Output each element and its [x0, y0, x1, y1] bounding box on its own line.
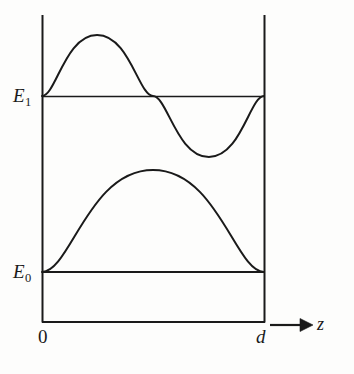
- energy-level-label-e1-letter: E: [13, 85, 25, 106]
- x-axis-tick-label-width: d: [256, 327, 266, 346]
- energy-level-label-e1: E1: [13, 86, 31, 105]
- energy-level-label-e0: E0: [13, 262, 31, 281]
- energy-level-label-e0-letter: E: [13, 261, 25, 282]
- x-axis-name-label: z: [317, 315, 324, 333]
- infinite-square-well-figure: E1 E0 0 d z: [0, 0, 354, 374]
- wavefunction-n1-curve: [42, 170, 264, 272]
- energy-level-label-e1-subscript: 1: [25, 95, 31, 109]
- well-diagram-svg: [0, 0, 354, 374]
- energy-level-label-e0-subscript: 0: [25, 271, 31, 285]
- z-axis-arrow-head: [300, 319, 313, 332]
- x-axis-tick-label-origin: 0: [38, 327, 48, 346]
